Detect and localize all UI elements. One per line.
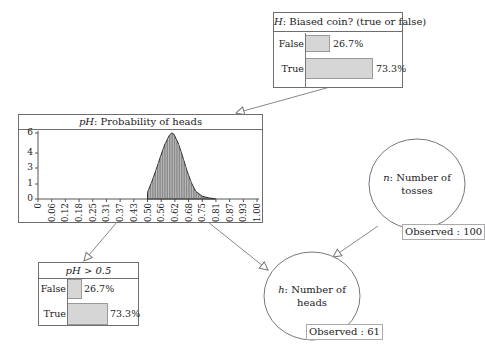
value-true: 73.3% <box>376 63 406 74</box>
node-prob-heads[interactable]: pH: Probability of heads 6 4 3 1 0 00.06… <box>18 114 263 223</box>
x-tick-label: 0.37 <box>115 203 125 223</box>
x-tick-label: 0.18 <box>74 203 84 223</box>
edge-ph-to-phgt <box>84 222 117 261</box>
edge-h-to-ph <box>236 87 330 113</box>
ytick-6: 6 <box>19 127 33 137</box>
x-tick-label: 0.75 <box>197 203 207 223</box>
bar-axis <box>305 33 306 88</box>
x-tick-label: 0.62 <box>170 203 180 223</box>
label-line2: tosses <box>401 185 432 196</box>
x-tick-label: 0.43 <box>129 203 139 223</box>
value-true: 73.3% <box>110 308 140 319</box>
bar-true <box>67 303 108 325</box>
var-name: pH <box>79 116 94 127</box>
node-n-label: n: Number of tosses <box>377 171 457 197</box>
ytick-1: 1 <box>19 178 33 188</box>
node-title: H: Biased coin? (true or false) <box>274 13 402 32</box>
label-line1: : Number of <box>390 172 451 183</box>
state-label-true: True <box>39 308 66 319</box>
x-tick-label: 0.50 <box>143 203 153 223</box>
x-tick-label: 0.31 <box>101 203 111 223</box>
node-title: pH > 0.5 <box>39 263 138 279</box>
chart-plot: 6 4 3 1 0 00.060.120.180.250.310.370.430… <box>19 129 262 222</box>
state-label-true: True <box>276 63 304 74</box>
label-line2: heads <box>297 297 327 308</box>
x-tick-label: 0.06 <box>47 203 57 223</box>
node-biased-coin[interactable]: H: Biased coin? (true or false) False 26… <box>273 12 403 88</box>
x-tick-label: 0.93 <box>238 203 248 223</box>
x-tick-label: 0.68 <box>184 203 194 223</box>
bar-true <box>305 58 373 79</box>
title-text: : Probability of heads <box>94 116 202 127</box>
ytick-0: 0 <box>19 193 33 203</box>
observed-n-badge: Observed : 100 <box>402 224 485 240</box>
x-tick-label: 0.12 <box>60 203 70 223</box>
x-tick-label: 0 <box>33 203 43 223</box>
label-line1: : Number of <box>285 284 346 295</box>
x-tick-label: 0.81 <box>211 203 221 223</box>
state-label-false: False <box>276 38 304 49</box>
state-label-false: False <box>39 283 66 294</box>
title-text: : Biased coin? (true or false) <box>283 16 427 27</box>
x-tick-label: 0.56 <box>156 203 166 223</box>
bar-false <box>67 279 82 299</box>
edge-n-to-h <box>333 226 378 257</box>
ytick-3: 3 <box>19 162 33 172</box>
x-tick-label: 1.00 <box>252 203 262 223</box>
value-false: 26.7% <box>84 283 114 294</box>
var-name: H <box>274 16 283 27</box>
bar-false <box>305 35 330 52</box>
ytick-4: 4 <box>19 147 33 157</box>
node-title: pH: Probability of heads <box>19 115 262 130</box>
x-tick-label: 0.25 <box>88 203 98 223</box>
observed-h-badge: Observed : 61 <box>306 324 383 340</box>
bar-axis <box>67 278 68 326</box>
value-false: 26.7% <box>333 38 363 49</box>
edge-ph-to-h <box>208 222 268 270</box>
x-tick-label: 0.87 <box>225 203 235 223</box>
node-ph-gt[interactable]: pH > 0.5 False 26.7% True 73.3% <box>38 262 139 326</box>
node-h-label: h: Number of heads <box>272 283 352 309</box>
